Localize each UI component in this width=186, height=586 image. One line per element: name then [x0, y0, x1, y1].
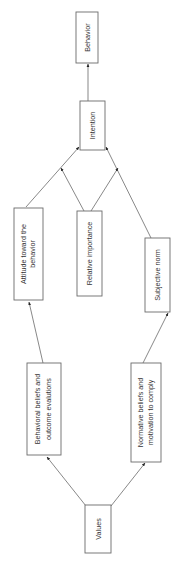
- edge-values-to-normative-beliefs: [111, 463, 145, 506]
- node-behavior-label: Behavior: [83, 23, 92, 52]
- edge-behavioral-beliefs-to-attitude: [29, 302, 43, 363]
- node-attitude: Attitude toward the behavior: [14, 208, 43, 300]
- node-behavioral-beliefs: Behavioral beliefs and outcome evalution…: [27, 363, 61, 455]
- node-intention: Intention: [80, 101, 105, 150]
- node-values-label: Values: [94, 518, 103, 540]
- node-normative-beliefs-label-line1: Normative beliefs and: [136, 378, 145, 448]
- node-behavior: Behavior: [76, 12, 98, 63]
- node-values: Values: [85, 505, 111, 553]
- node-normative-beliefs-label-line2: motivation to comply: [146, 379, 155, 445]
- node-behavioral-beliefs-label-line2: outcome evalutions: [44, 378, 53, 440]
- node-attitude-label-line2: behavior: [28, 240, 37, 268]
- node-normative-beliefs: Normative beliefs and motivation to comp…: [131, 363, 161, 462]
- node-subjective-norm: Subjective norm: [145, 238, 170, 312]
- diagram-canvas: Behavior Intention Attitude toward the b…: [0, 0, 186, 586]
- node-intention-label: Intention: [88, 112, 97, 140]
- node-attitude-label-line1: Attitude toward the: [19, 224, 28, 284]
- edge-normative-beliefs-to-subjective-norm: [143, 313, 168, 363]
- edge-values-to-behavioral-beliefs: [47, 457, 86, 506]
- node-relative-importance-label: Relative importance: [85, 222, 94, 286]
- node-subjective-norm-label: Subjective norm: [153, 249, 162, 301]
- node-relative-importance: Relative importance: [77, 211, 102, 296]
- edge-attitude-to-intention: [26, 147, 79, 207]
- edge-relative-importance-to-norm-link: [91, 168, 118, 211]
- edge-subjective-norm-to-intention: [106, 147, 151, 238]
- node-behavioral-beliefs-label-line1: Behavioral beliefs and: [33, 374, 42, 445]
- edge-relative-importance-to-attitude-link: [61, 168, 84, 211]
